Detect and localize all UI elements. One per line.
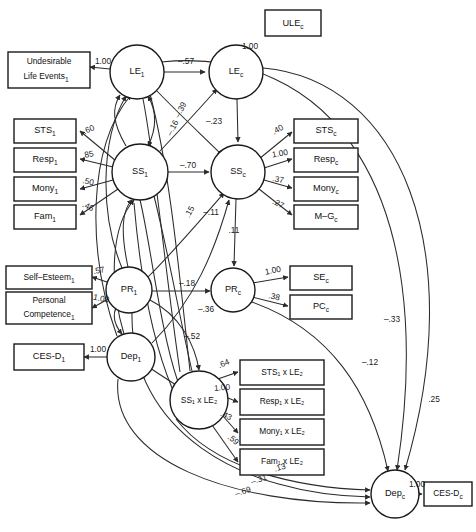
label-mony1-le2: Mony₁ x LE₂ (259, 426, 305, 436)
coef-pr1-ssc: .15 (182, 204, 196, 219)
coef-ssc-respc: 1.00 (271, 147, 289, 160)
coef-prc-sec: 1.00 (264, 264, 282, 277)
coef-ss1-resp1: .85 (81, 148, 95, 160)
path-dep1-ssc (152, 200, 229, 343)
coef-prc-pcc: .38 (267, 290, 281, 302)
label-self-esteem-1: Self–Esteem1 (23, 272, 74, 283)
label-pers-comp-1-line1: Personal (32, 295, 65, 305)
path-le1-ule1 (90, 67, 110, 69)
coef-ssc-monyc: .37 (272, 173, 286, 185)
label-ule-1-line1: Undesirable (27, 56, 72, 66)
label-ule-1-line2: Life Events1 (23, 71, 68, 82)
coef-le1-lec: –.57 (178, 56, 195, 66)
coef-prc-depc: –.12 (362, 357, 379, 367)
path-ss1-resp1 (80, 159, 113, 167)
coef-le1-depc: –.33 (384, 314, 401, 324)
coef-ss1le2-sts1le2: .64 (216, 356, 231, 370)
path-corr-pr1-ss1 (123, 200, 132, 267)
coef-ss1-fam1: .46 (81, 199, 96, 213)
coef-ss1le2-resp1le2: 1.00 (213, 381, 230, 392)
path-ss1le2-resp1le2 (228, 398, 238, 402)
label-sts1-le2: STS₁ x LE₂ (261, 367, 302, 377)
coef-lec-depc: .25 (428, 394, 440, 404)
coef-ss1-lec: –.39 (172, 100, 189, 119)
coef-le1-ssc: –.16 (164, 118, 181, 137)
path-lec-ssc (237, 99, 238, 142)
path-prc-sec (252, 277, 288, 283)
diagram-canvas: ULEc Undesirable Life Events1 STS1 Resp1… (0, 0, 476, 532)
coef-pr1-se1: .57 (92, 264, 106, 276)
coef-dep1-ssc: –.11 (203, 207, 219, 217)
coef-ssc-stsc: .40 (270, 122, 285, 137)
coef-ssc-prc: .11 (229, 225, 240, 235)
sem-path-diagram: ULEc Undesirable Life Events1 STS1 Resp1… (0, 0, 476, 532)
coef-lec-ssc: –.23 (206, 116, 223, 126)
coef-depc-cesdc: 1.00 (409, 479, 426, 489)
path-corr-ss1-le1-a (115, 95, 126, 146)
coef-ss1le2-fam1le2: .59 (226, 432, 242, 447)
label-cesd-1: CES-D1 (33, 351, 66, 362)
coef-dep1-ss1le2: –.52 (184, 331, 201, 341)
coef-pr1-prc: –.18 (179, 278, 196, 288)
coef-ss1-sts1: .60 (81, 122, 96, 136)
path-ssc-respc (264, 159, 292, 168)
label-ss1-le2: SS₁ x LE₂ (181, 395, 217, 405)
coef-ss1le2-mony1le2: .43 (219, 408, 234, 422)
label-pers-comp-1-line2: Competence1 (23, 309, 75, 320)
label-resp1-le2: Resp₁ x LE₂ (260, 396, 305, 406)
coef-ss1-ssc: –.70 (180, 160, 197, 170)
coef-le1-ule1: 1.00 (95, 56, 112, 66)
coef-pr1-ss1le2: –.36 (198, 304, 215, 314)
coef-pr1-pc1: 1.00 (92, 292, 110, 305)
coef-dep1-cesd1: 1.00 (90, 344, 107, 354)
coef-dep1-depc: –.69 (234, 484, 253, 498)
coef-lec-ulec: 1.00 (242, 41, 259, 51)
label-cesd-c: CES-Dc (433, 488, 463, 499)
